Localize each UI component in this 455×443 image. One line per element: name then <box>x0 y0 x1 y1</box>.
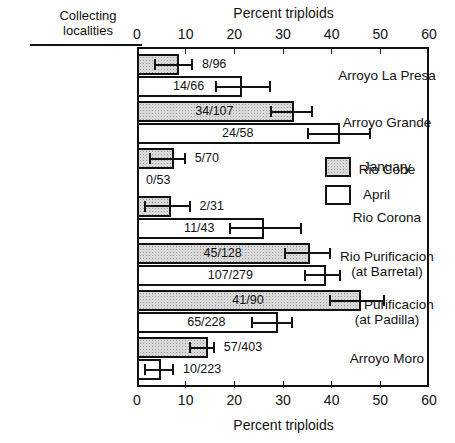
error-bar-cap <box>291 317 293 328</box>
bar-value-label: 57/403 <box>224 337 262 358</box>
tick-bot-10 <box>185 381 186 388</box>
error-bar-cap <box>383 295 385 306</box>
tick-bot-30 <box>283 381 284 388</box>
bar-value-label: 65/228 <box>137 312 276 333</box>
header-line-1: Collecting <box>36 8 140 23</box>
tick-label-bot-10: 10 <box>166 392 206 408</box>
bar-value-label: 107/279 <box>137 265 324 286</box>
category-label: Arroyo Moro <box>319 351 455 366</box>
tick-label-top-10: 10 <box>166 26 206 42</box>
error-bar-line <box>144 205 190 207</box>
legend-label-april: April <box>363 184 390 206</box>
category-label-line: Rio Purificacion <box>319 249 455 264</box>
tick-top-40 <box>331 47 332 54</box>
error-bar-cap <box>144 364 146 375</box>
error-bar-cap <box>369 128 371 139</box>
error-bar-cap <box>184 153 186 164</box>
tick-top-30 <box>283 47 284 54</box>
error-bar-cap <box>191 59 193 70</box>
tick-label-top-30: 30 <box>263 26 303 42</box>
tick-label-bot-40: 40 <box>312 392 352 408</box>
error-bar-cap <box>189 342 191 353</box>
bar-value-label: 14/66 <box>137 76 240 97</box>
legend-swatch-january <box>325 157 351 177</box>
category-label-line: Arroyo Moro <box>319 351 455 366</box>
category-label: Rio Corona <box>319 210 455 225</box>
bottom-axis-title: Percent triploids <box>137 417 430 433</box>
bar-value-label: 34/107 <box>137 101 292 122</box>
tick-label-bot-20: 20 <box>214 392 254 408</box>
error-bar-cap <box>189 201 191 212</box>
bar-value-label: 10/223 <box>183 359 221 380</box>
error-bar-cap <box>339 270 341 281</box>
tick-label-top-0: 0 <box>117 26 157 42</box>
bar-value-label: 24/58 <box>137 123 338 144</box>
tick-label-bot-60: 60 <box>409 392 449 408</box>
figure: Collecting localities Percent triploids … <box>0 0 455 443</box>
error-bar-line <box>149 158 186 160</box>
top-axis-title: Percent triploids <box>137 5 430 21</box>
header-rule <box>30 44 142 46</box>
error-bar-cap <box>269 81 271 92</box>
bar-value-label: 2/31 <box>200 196 224 217</box>
bar-value-label: 45/128 <box>137 243 308 264</box>
bar-value-label: 8/96 <box>202 54 226 75</box>
tick-label-top-60: 60 <box>409 26 449 42</box>
tick-label-top-50: 50 <box>360 26 400 42</box>
tick-label-top-20: 20 <box>214 26 254 42</box>
bar-value-label: 5/70 <box>195 148 219 169</box>
tick-label-bot-50: 50 <box>360 392 400 408</box>
category-label-line: Arroyo La Presa <box>319 68 455 83</box>
error-bar-cap <box>154 59 156 70</box>
error-bar-cap <box>311 106 313 117</box>
legend-swatch-april <box>325 185 351 205</box>
error-bar-line <box>144 369 174 371</box>
tick-top-10 <box>185 47 186 54</box>
category-label-line: (at Padilla) <box>319 312 455 327</box>
bar-value-label: 41/90 <box>137 290 359 311</box>
error-bar-cap <box>149 153 151 164</box>
legend-label-january: January <box>363 156 411 178</box>
error-bar-cap <box>213 342 215 353</box>
category-label-line: Rio Corona <box>319 210 455 225</box>
tick-top-50 <box>380 47 381 54</box>
tick-label-bot-0: 0 <box>117 392 157 408</box>
tick-bot-50 <box>380 381 381 388</box>
tick-bot-40 <box>331 381 332 388</box>
tick-label-bot-30: 30 <box>263 392 303 408</box>
tick-label-top-40: 40 <box>312 26 352 42</box>
error-bar-cap <box>172 364 174 375</box>
error-bar-line <box>154 64 193 66</box>
error-bar-line <box>189 347 215 349</box>
error-bar-cap <box>144 201 146 212</box>
error-bar-cap <box>329 248 331 259</box>
bar-value-label: 0/53 <box>146 170 170 191</box>
tick-bot-20 <box>234 381 235 388</box>
category-label: Arroyo La Presa <box>319 68 455 83</box>
bar-value-label: 11/43 <box>137 218 262 239</box>
error-bar-cap <box>300 223 302 234</box>
tick-top-20 <box>234 47 235 54</box>
